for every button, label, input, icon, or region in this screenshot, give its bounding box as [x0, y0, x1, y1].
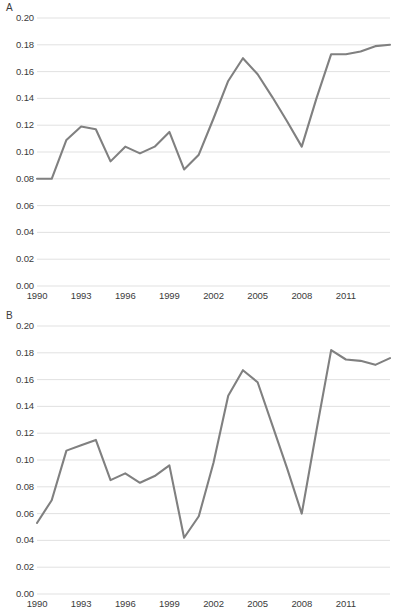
y-axis-tick-label: 0.06 — [2, 201, 34, 211]
x-axis-tick-label: 1993 — [71, 291, 92, 301]
chart-panel-b: B 0.200.180.160.140.120.100.080.060.040.… — [0, 308, 393, 616]
x-axis-tick-label: 2002 — [203, 599, 224, 609]
x-axis-tick-label: 1996 — [115, 599, 136, 609]
y-axis-tick-label: 0.16 — [2, 375, 34, 385]
y-axis-ticks-a: 0.200.180.160.140.120.100.080.060.040.02… — [0, 0, 34, 308]
y-axis-tick-label: 0.18 — [2, 348, 34, 358]
x-axis-tick-label: 1999 — [159, 599, 180, 609]
y-axis-tick-label: 0.14 — [2, 401, 34, 411]
y-axis-tick-label: 0.10 — [2, 455, 34, 465]
y-axis-tick-label: 0.04 — [2, 227, 34, 237]
x-axis-tick-label: 1990 — [27, 291, 48, 301]
y-axis-tick-label: 0.18 — [2, 40, 34, 50]
x-axis-tick-label: 1996 — [115, 291, 136, 301]
data-series-line — [37, 350, 390, 538]
x-axis-tick-label: 2002 — [203, 291, 224, 301]
x-axis-tick-label: 2005 — [247, 291, 268, 301]
y-axis-tick-label: 0.08 — [2, 482, 34, 492]
y-axis-tick-label: 0.06 — [2, 509, 34, 519]
data-series-line — [37, 45, 390, 179]
y-axis-tick-label: 0.12 — [2, 120, 34, 130]
chart-panel-a: A 0.200.180.160.140.120.100.080.060.040.… — [0, 0, 393, 308]
y-axis-ticks-b: 0.200.180.160.140.120.100.080.060.040.02… — [0, 308, 34, 616]
y-axis-tick-label: 0.08 — [2, 174, 34, 184]
line-chart-b — [0, 308, 393, 616]
y-axis-tick-label: 0.20 — [2, 321, 34, 331]
y-axis-tick-label: 0.12 — [2, 428, 34, 438]
y-axis-tick-label: 0.14 — [2, 93, 34, 103]
y-axis-tick-label: 0.16 — [2, 67, 34, 77]
x-axis-tick-label: 1990 — [27, 599, 48, 609]
x-axis-tick-label: 2005 — [247, 599, 268, 609]
y-axis-tick-label: 0.02 — [2, 562, 34, 572]
y-axis-tick-label: 0.04 — [2, 535, 34, 545]
plot-area-a — [0, 0, 393, 308]
y-axis-tick-label: 0.10 — [2, 147, 34, 157]
y-axis-tick-label: 0.20 — [2, 13, 34, 23]
line-chart-a — [0, 0, 393, 308]
x-axis-tick-label: 2011 — [336, 291, 356, 301]
x-axis-tick-label: 1993 — [71, 599, 92, 609]
x-axis-tick-label: 2008 — [291, 291, 312, 301]
x-axis-tick-label: 2011 — [336, 599, 356, 609]
x-axis-tick-label: 1999 — [159, 291, 180, 301]
y-axis-tick-label: 0.02 — [2, 254, 34, 264]
x-axis-tick-label: 2008 — [291, 599, 312, 609]
plot-area-b — [0, 308, 393, 616]
